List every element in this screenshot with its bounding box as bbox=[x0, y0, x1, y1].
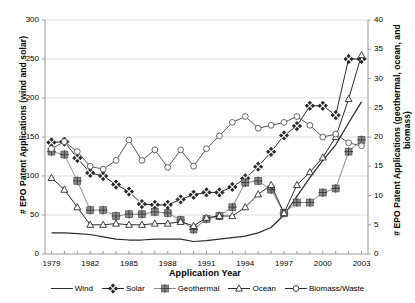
series-solar bbox=[47, 54, 366, 209]
legend-item-label: Geothermal bbox=[178, 284, 220, 293]
circle-open-marker-icon bbox=[285, 283, 307, 294]
series-ocean bbox=[48, 52, 365, 229]
y-axis-left-tick-label: 300 bbox=[13, 15, 39, 24]
x-axis-tick-label: 1994 bbox=[225, 259, 265, 268]
legend-item-label: Biomass/Waste bbox=[309, 284, 364, 293]
chart-legend: WindSolarGeothermalOceanBiomass/Waste bbox=[0, 283, 415, 294]
y-axis-left-tick-label: 250 bbox=[13, 54, 39, 63]
y-axis-right-tick-label: 10 bbox=[374, 191, 400, 200]
triangle-marker-icon bbox=[228, 283, 250, 294]
legend-item-biomass-waste[interactable]: Biomass/Waste bbox=[285, 283, 364, 294]
y-axis-right-tick-label: 0 bbox=[374, 249, 400, 258]
y-axis-right-tick-label: 40 bbox=[374, 15, 400, 24]
legend-item-wind[interactable]: Wind bbox=[51, 283, 93, 294]
legend-item-geothermal[interactable]: Geothermal bbox=[154, 283, 220, 294]
y-axis-left-tick-label: 100 bbox=[13, 171, 39, 180]
y-axis-left-tick-label: 200 bbox=[13, 93, 39, 102]
x-axis-tick-label: 2000 bbox=[303, 259, 343, 268]
legend-item-solar[interactable]: Solar bbox=[102, 283, 145, 294]
legend-item-label: Ocean bbox=[252, 284, 276, 293]
y-axis-left-tick-label: 50 bbox=[13, 210, 39, 219]
y-axis-right-tick-label: 5 bbox=[374, 220, 400, 229]
chart-container: # EPO Patent Applications (wind and sola… bbox=[0, 0, 415, 303]
x-axis-title: Application Year bbox=[40, 268, 370, 278]
y-axis-right-tick-label: 25 bbox=[374, 103, 400, 112]
line-marker-icon bbox=[51, 283, 73, 294]
x-axis-tick-label: 1991 bbox=[187, 259, 227, 268]
x-axis-tick-label: 1997 bbox=[264, 259, 304, 268]
square-cross-marker-icon bbox=[154, 283, 176, 294]
x-axis-tick-label: 1982 bbox=[70, 259, 110, 268]
y-axis-right-tick-label: 20 bbox=[374, 132, 400, 141]
plot-area bbox=[0, 0, 415, 303]
x-axis-tick-label: 1985 bbox=[109, 259, 149, 268]
x-axis-tick-label: 2003 bbox=[342, 259, 382, 268]
diamond-x-marker-icon bbox=[102, 283, 124, 294]
y-axis-left-title: # EPO Patent Applications (wind and sola… bbox=[18, 10, 28, 240]
y-axis-right-tick-label: 30 bbox=[374, 74, 400, 83]
legend-item-label: Solar bbox=[126, 284, 145, 293]
y-axis-right-tick-label: 35 bbox=[374, 44, 400, 53]
x-axis-tick-label: 1979 bbox=[31, 259, 71, 268]
y-axis-left-tick-label: 0 bbox=[13, 249, 39, 258]
x-axis-tick-label: 1988 bbox=[148, 259, 188, 268]
y-axis-right-tick-label: 15 bbox=[374, 161, 400, 170]
legend-item-label: Wind bbox=[75, 284, 93, 293]
legend-item-ocean[interactable]: Ocean bbox=[228, 283, 276, 294]
y-axis-left-tick-label: 150 bbox=[13, 132, 39, 141]
